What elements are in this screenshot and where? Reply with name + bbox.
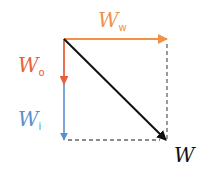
label-w: W [174, 143, 196, 167]
vector-w [64, 39, 166, 140]
label-w-i: Wi [18, 107, 41, 132]
label-w-o: Wo [18, 53, 45, 78]
vector-diagram: Ww Wo Wi W [0, 0, 209, 178]
label-w-w: Ww [98, 8, 127, 33]
